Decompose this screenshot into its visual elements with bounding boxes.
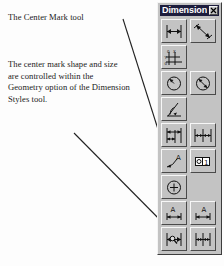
center-mark-button[interactable] xyxy=(161,175,187,199)
angular-dimension-icon xyxy=(164,101,184,118)
angular-dimension-button[interactable] xyxy=(161,97,187,121)
baseline-dimension-icon xyxy=(164,127,184,144)
center-mark-icon xyxy=(164,179,184,196)
tolerance-button[interactable]: 1 xyxy=(190,149,216,173)
dimension-text-edit-icon: A xyxy=(193,205,213,222)
leader-button[interactable]: A xyxy=(161,149,187,173)
aligned-dimension-button[interactable] xyxy=(190,19,216,43)
tolerance-icon: 1 xyxy=(193,153,213,170)
close-icon[interactable] xyxy=(209,6,218,15)
dimension-update-icon xyxy=(164,231,184,248)
toolbar-button-grid[interactable]: 0 X Y 0 xyxy=(161,19,219,251)
callout-center-mark-description: The center mark shape and size are contr… xyxy=(8,59,130,105)
dimension-style-icon xyxy=(193,231,213,248)
svg-text:A: A xyxy=(201,206,206,214)
dimension-text-edit-button[interactable]: A xyxy=(190,201,216,225)
diameter-dimension-icon xyxy=(193,75,213,92)
leader-icon: A xyxy=(164,153,184,170)
grid-spacer xyxy=(190,97,216,121)
dimension-update-button[interactable] xyxy=(161,227,187,251)
dimension-toolbar[interactable]: Dimension xyxy=(157,2,222,255)
svg-text:A: A xyxy=(176,154,181,162)
svg-text:1: 1 xyxy=(204,158,208,166)
dimension-edit-button[interactable]: A xyxy=(161,201,187,225)
svg-text:0: 0 xyxy=(167,49,170,54)
callout-center-mark-tool: The Center Mark tool xyxy=(8,12,138,24)
document-page: The Center Mark tool The center mark sha… xyxy=(0,0,224,266)
grid-spacer xyxy=(190,175,216,199)
dimension-style-button[interactable] xyxy=(190,227,216,251)
toolbar-title-bar[interactable]: Dimension xyxy=(160,5,219,16)
diameter-dimension-button[interactable] xyxy=(190,71,216,95)
grid-spacer xyxy=(190,45,216,69)
ordinate-dimension-icon: 0 X Y 0 xyxy=(164,49,184,66)
dimension-edit-icon: A xyxy=(164,205,184,222)
linear-dimension-button[interactable] xyxy=(161,19,187,43)
continue-dimension-button[interactable] xyxy=(190,123,216,147)
linear-dimension-icon xyxy=(164,23,184,40)
continue-dimension-icon xyxy=(193,127,213,144)
toolbar-title: Dimension xyxy=(162,5,207,16)
ordinate-dimension-button[interactable]: 0 X Y 0 xyxy=(161,45,187,69)
radius-dimension-icon xyxy=(164,75,184,92)
baseline-dimension-button[interactable] xyxy=(161,123,187,147)
svg-text:A: A xyxy=(170,206,175,214)
aligned-dimension-icon xyxy=(193,23,213,40)
svg-text:X: X xyxy=(173,49,176,54)
radius-dimension-button[interactable] xyxy=(161,71,187,95)
